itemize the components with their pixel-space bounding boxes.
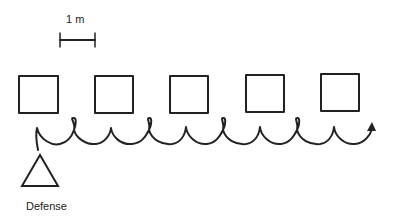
- cone-5: [321, 74, 359, 111]
- cone-3: [170, 76, 208, 113]
- movement-path: [36, 118, 372, 150]
- drill-diagram: [0, 0, 394, 220]
- cone-2: [95, 76, 133, 113]
- defense-triangle-icon: [22, 155, 58, 186]
- cone-1: [19, 76, 58, 113]
- scale-bar: [60, 33, 95, 47]
- cone-4: [246, 75, 284, 112]
- arrow-head-icon: [367, 122, 376, 131]
